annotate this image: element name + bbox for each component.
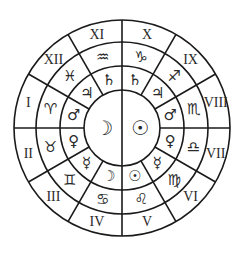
sagittarius-icon: ♐︎ bbox=[168, 67, 181, 85]
mars-icon: ♂ bbox=[164, 106, 177, 124]
venus-icon: ♀ bbox=[165, 132, 176, 150]
jupiter-icon: ♃ bbox=[151, 84, 164, 102]
jupiter-icon: ♃ bbox=[80, 84, 93, 102]
house-numeral: VIII bbox=[204, 95, 228, 110]
moon-icon: ☽ bbox=[102, 167, 115, 185]
house-ii: II♉︎♀ bbox=[24, 132, 80, 161]
aries-icon: ♈︎ bbox=[44, 100, 57, 118]
house-vii: VII♎︎♀ bbox=[165, 132, 226, 161]
house-numeral: XI bbox=[90, 27, 105, 42]
saturn-icon: ♄ bbox=[102, 71, 115, 89]
mercury-icon: ☿ bbox=[153, 154, 162, 172]
leo-icon: ♌︎ bbox=[134, 190, 147, 208]
cancer-icon: ♋︎ bbox=[96, 190, 109, 208]
house-numeral: VII bbox=[206, 146, 226, 161]
sun-icon: ☉ bbox=[131, 116, 149, 140]
astrology-chart: I♈︎♂II♉︎♀III♊︎☿IV♋︎☽V♌︎☉VI♍︎☿VII♎︎♀VIII♏… bbox=[0, 0, 243, 253]
house-numeral: X bbox=[142, 27, 152, 42]
mars-icon: ♂ bbox=[67, 106, 80, 124]
house-numeral: VI bbox=[183, 189, 198, 204]
virgo-icon: ♍︎ bbox=[168, 171, 181, 189]
house-numeral: III bbox=[46, 189, 60, 204]
house-numeral: V bbox=[142, 214, 152, 229]
scorpio-icon: ♏︎ bbox=[187, 100, 201, 118]
house-cusp-line bbox=[28, 147, 89, 182]
gemini-icon: ♊︎ bbox=[63, 171, 76, 189]
house-v: V♌︎☉ bbox=[128, 167, 152, 229]
sun-icon: ☉ bbox=[128, 167, 141, 185]
capricorn-icon: ♑︎ bbox=[134, 48, 147, 66]
house-x: X♑︎♄ bbox=[128, 27, 152, 89]
house-numeral: IX bbox=[183, 52, 198, 67]
aquarius-icon: ♒︎ bbox=[96, 48, 109, 66]
moon-icon: ☽ bbox=[95, 116, 113, 140]
taurus-icon: ♉︎ bbox=[44, 138, 57, 156]
pisces-icon: ♓︎ bbox=[63, 67, 76, 85]
mercury-icon: ☿ bbox=[82, 154, 91, 172]
house-viii: VIII♏︎♂ bbox=[164, 95, 229, 124]
house-numeral: I bbox=[26, 95, 31, 110]
house-numeral: IV bbox=[90, 214, 105, 229]
saturn-icon: ♄ bbox=[128, 71, 141, 89]
venus-icon: ♀ bbox=[68, 132, 79, 150]
house-numeral: XII bbox=[44, 52, 64, 67]
libra-icon: ♎︎ bbox=[187, 138, 200, 156]
house-numeral: II bbox=[24, 146, 34, 161]
